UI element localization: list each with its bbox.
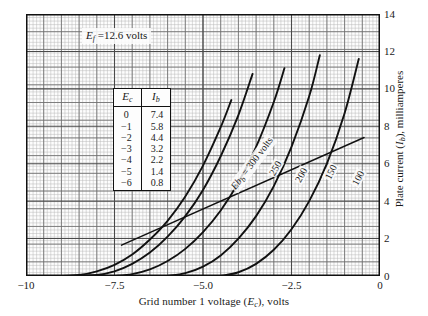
x-axis-title: Grid number 1 voltage (Ec), volts	[0, 295, 428, 309]
table-cell-ec: −4	[114, 154, 142, 165]
table-cell-ec: −5	[114, 166, 142, 177]
table-header-ib: Ib	[141, 89, 171, 107]
table-cell-ib: 4.4	[141, 132, 171, 143]
table-cell-ib: 7.4	[141, 107, 171, 121]
x-tick-n2n5: −2.5	[262, 279, 322, 291]
filament-voltage-annotation: Ef =12.6 volts	[82, 28, 151, 44]
x-title-pre: Grid number 1 voltage (	[139, 295, 248, 307]
table-cell-ec: −1	[114, 121, 142, 132]
table-cell-ib: 2.2	[141, 154, 171, 165]
x-tick-n5n0: −5.0	[173, 279, 233, 291]
table-row: −60.8	[114, 177, 171, 191]
x-tick-n7n5: −7.5	[85, 279, 145, 291]
table-cell-ec: −3	[114, 143, 142, 154]
plot-area	[26, 14, 380, 276]
table-cell-ib: 0.8	[141, 177, 171, 191]
y-tick-14: 14	[384, 9, 408, 20]
plot-canvas	[26, 14, 380, 276]
table-row: −15.8	[114, 121, 171, 132]
y-title-post: ), milliamperes	[393, 71, 405, 138]
table-row: 07.4	[114, 107, 171, 121]
ef-symbol: E	[86, 29, 93, 41]
table-body: 07.4−15.8−24.4−33.2−42.2−51.4−60.8	[114, 107, 171, 191]
tube-characteristic-chart: Ebb = 300 volts250200150100 Ef =12.6 vol…	[0, 0, 428, 316]
x-tick-n10: −10	[0, 279, 56, 291]
operating-point-table: Ec Ib 07.4−15.8−24.4−33.2−42.2−51.4−60.8	[113, 88, 171, 191]
table-header-ec: Ec	[114, 89, 142, 107]
x-title-post: ), volts	[258, 295, 289, 307]
y-title-symbol: I	[393, 141, 405, 145]
table-cell-ec: 0	[114, 107, 142, 121]
table-header-row: Ec Ib	[114, 89, 171, 107]
y-tick-0: 0	[384, 271, 408, 282]
table-cell-ib: 3.2	[141, 143, 171, 154]
table-cell-ec: −6	[114, 177, 142, 191]
table-row: −51.4	[114, 166, 171, 177]
table-row: −42.2	[114, 154, 171, 165]
table-row: −33.2	[114, 143, 171, 154]
ef-value: =12.6 volts	[95, 29, 147, 41]
table-cell-ec: −2	[114, 132, 142, 143]
y-title-pre: Plate current (	[393, 145, 405, 207]
table-cell-ib: 1.4	[141, 166, 171, 177]
table-cell-ib: 5.8	[141, 121, 171, 132]
y-axis-title: Plate current (Ib), milliamperes	[393, 19, 407, 259]
y-title-subscript: b	[398, 137, 407, 141]
table-row: −24.4	[114, 132, 171, 143]
